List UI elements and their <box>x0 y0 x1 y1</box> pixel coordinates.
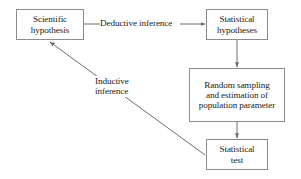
node-statistical-hypotheses-label: Statistical hypotheses <box>215 14 259 35</box>
node-statistical-test: Statistical test <box>206 139 268 170</box>
edge-inductive-diagonal <box>50 42 205 155</box>
node-random-sampling-label: Random sampling and estimation of popula… <box>197 80 277 111</box>
edge-label-deductive-inference: Deductive inference <box>100 18 172 28</box>
node-random-sampling: Random sampling and estimation of popula… <box>189 68 285 122</box>
node-statistical-test-label: Statistical test <box>217 144 256 165</box>
node-scientific-hypothesis: Scientific hypothesis <box>16 9 84 40</box>
edge-label-inductive-inference: Inductive inference <box>95 76 129 97</box>
diagram-canvas: Scientific hypothesis Statistical hypoth… <box>0 0 301 179</box>
node-statistical-hypotheses: Statistical hypotheses <box>206 9 268 40</box>
node-scientific-hypothesis-label: Scientific hypothesis <box>29 14 71 35</box>
